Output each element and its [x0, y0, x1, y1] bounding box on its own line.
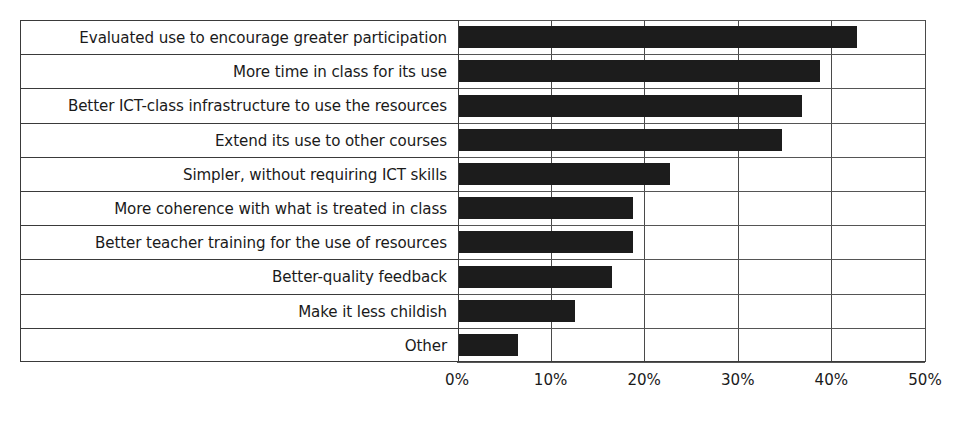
x-tick-label: 50%	[908, 371, 942, 389]
bar	[457, 334, 518, 356]
category-label: Make it less childish	[21, 295, 458, 329]
bar	[457, 197, 633, 219]
bar	[457, 95, 802, 117]
plot-row-separator	[457, 157, 925, 158]
category-label: Better teacher training for the use of r…	[21, 226, 458, 260]
label-row-separator	[20, 225, 459, 226]
x-tick-label: 10%	[534, 371, 568, 389]
category-label: Extend its use to other courses	[21, 124, 458, 158]
plot-row-separator	[457, 259, 925, 260]
plot-row-separator	[457, 123, 925, 124]
x-axis-line	[457, 361, 925, 362]
bar	[457, 300, 575, 322]
bar	[457, 163, 670, 185]
label-row-separator	[20, 259, 459, 260]
bar	[457, 129, 782, 151]
x-tick-label: 40%	[815, 371, 849, 389]
gridline-50	[925, 20, 926, 362]
label-row-separator	[20, 54, 459, 55]
category-label: Other	[21, 329, 458, 363]
plot-row-separator	[457, 328, 925, 329]
category-label: More time in class for its use	[21, 55, 458, 89]
category-label: Better ICT-class infrastructure to use t…	[21, 89, 458, 123]
x-tick-label: 0%	[445, 371, 469, 389]
bar	[457, 26, 857, 48]
plot-row-separator	[457, 88, 925, 89]
bar	[457, 60, 820, 82]
x-tick-label: 20%	[627, 371, 661, 389]
label-row-separator	[20, 294, 459, 295]
plot-row-separator	[457, 191, 925, 192]
category-label: Better-quality feedback	[21, 260, 458, 294]
plot-row-separator	[457, 20, 925, 21]
category-label: Simpler, without requiring ICT skills	[21, 158, 458, 192]
label-row-separator	[20, 191, 459, 192]
label-row-separator	[20, 328, 459, 329]
bar	[457, 266, 612, 288]
bar	[457, 231, 633, 253]
plot-row-separator	[457, 362, 925, 363]
category-label: Evaluated use to encourage greater parti…	[21, 21, 458, 55]
plot-row-separator	[457, 54, 925, 55]
label-row-separator	[20, 123, 459, 124]
x-tick-label: 30%	[721, 371, 755, 389]
plot-row-separator	[457, 225, 925, 226]
plot-row-separator	[457, 294, 925, 295]
label-row-separator	[20, 157, 459, 158]
label-row-separator	[20, 88, 459, 89]
horizontal-bar-chart: Evaluated use to encourage greater parti…	[0, 0, 960, 421]
category-label: More coherence with what is treated in c…	[21, 192, 458, 226]
